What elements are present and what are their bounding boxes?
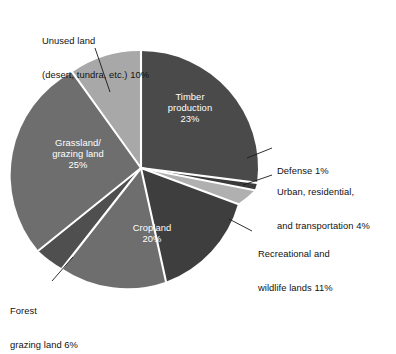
pie-slice-timber[interactable]	[141, 51, 258, 183]
slice-label-timber-line2: production	[168, 102, 212, 113]
slice-label-timber-line3: 23%	[181, 113, 200, 124]
external-label-recreational: Recreational and wildlife lands 11%	[258, 225, 333, 316]
external-label-urban-line1: Urban, residential,	[277, 186, 370, 197]
external-label-unused: Unused land (desert, tundra, etc.) 10%	[42, 12, 149, 103]
external-label-forest-grazing-line1: Forest	[10, 305, 78, 316]
slice-label-grassland-line2: grazing land	[52, 148, 104, 159]
external-label-unused-line2: (desert, tundra, etc.) 10%	[42, 69, 149, 80]
external-label-forest-grazing-line2: grazing land 6%	[10, 339, 78, 350]
external-label-unused-line1: Unused land	[42, 35, 149, 46]
slice-label-cropland-line2: 20%	[143, 233, 162, 244]
external-label-forest-grazing: Forest grazing land 6%	[10, 282, 78, 354]
slice-label-timber-line1: Timber	[175, 91, 204, 102]
slice-label-grassland-line1: Grassland/	[55, 137, 101, 148]
slice-label-cropland-line1: Cropland	[133, 222, 171, 233]
external-label-recreational-line1: Recreational and	[258, 248, 333, 259]
leader-line-recreational	[229, 219, 252, 231]
external-label-recreational-line2: wildlife lands 11%	[258, 282, 333, 293]
slice-label-grassland-line3: 25%	[69, 159, 88, 170]
